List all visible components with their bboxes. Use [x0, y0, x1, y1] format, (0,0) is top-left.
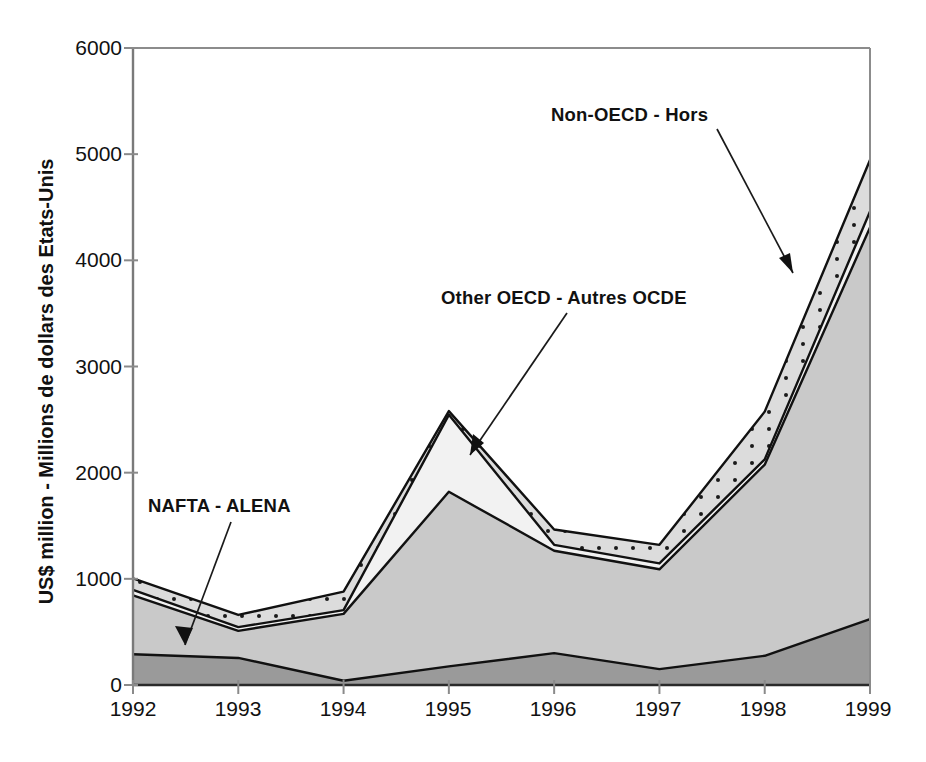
plot-area — [0, 0, 926, 762]
annotation-leader-other-oecd — [470, 313, 567, 455]
annotation-leader-non-oecd — [717, 129, 793, 273]
stacked-area-chart: US$ million - Millions de dollars des Et… — [0, 0, 926, 762]
